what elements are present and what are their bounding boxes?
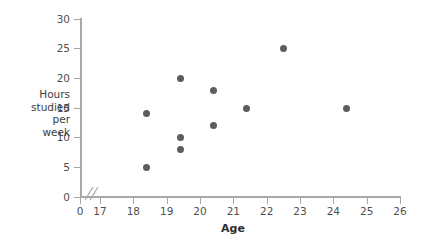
data-point [280,45,287,52]
data-point [177,134,184,141]
plot-area [0,0,430,245]
scatter-chart: 051015202530 017181920212223242526 Hours… [0,0,430,245]
data-point [243,105,250,112]
data-point [143,164,150,171]
data-point [210,87,217,94]
data-point [343,105,350,112]
data-point [210,122,217,129]
data-point [143,110,150,117]
data-point [177,146,184,153]
data-point [177,75,184,82]
